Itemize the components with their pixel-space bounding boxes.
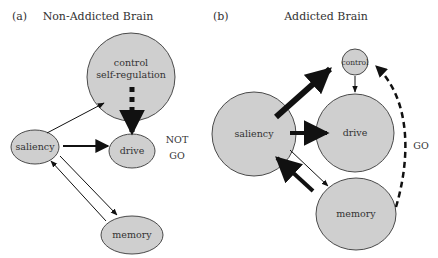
arrow-saliency-to-control-big xyxy=(276,69,330,117)
node-drive: drive xyxy=(316,94,394,172)
arrow-memory-to-saliency xyxy=(51,161,106,221)
arrow-saliency-to-memory xyxy=(60,156,117,215)
node-label: memory xyxy=(336,208,376,219)
node-label: saliency xyxy=(15,141,55,152)
not-go-label: NOT xyxy=(166,134,189,145)
panel-b-tag: (b) xyxy=(213,10,229,23)
panel-b: (b) Addicted Brain control saliency driv… xyxy=(212,10,429,250)
node-memory: memory xyxy=(316,178,396,250)
panel-a: (a) Non-Addicted Brain control self-regu… xyxy=(11,10,189,254)
node-label: control xyxy=(114,57,148,68)
panel-a-title: Non-Addicted Brain xyxy=(43,10,154,23)
node-memory: memory xyxy=(101,216,163,254)
arrow-saliency-to-memory xyxy=(290,150,328,186)
node-label: drive xyxy=(343,127,368,138)
node-control: control xyxy=(341,49,369,75)
node-saliency: saliency xyxy=(11,130,59,164)
node-label: saliency xyxy=(234,128,274,139)
node-label: self-regulation xyxy=(96,69,166,80)
panel-b-title: Addicted Brain xyxy=(283,10,368,23)
go-label: GO xyxy=(413,140,429,151)
panel-a-tag: (a) xyxy=(12,10,27,23)
node-label: control xyxy=(341,58,369,67)
not-go-label: GO xyxy=(169,150,185,161)
addiction-brain-diagram: (a) Non-Addicted Brain control self-regu… xyxy=(0,0,438,258)
arrow-saliency-to-control xyxy=(47,103,104,133)
arrow-memory-to-saliency-big xyxy=(277,158,313,191)
node-label: drive xyxy=(120,145,145,156)
node-drive: drive xyxy=(109,134,155,168)
node-label: memory xyxy=(112,229,152,240)
